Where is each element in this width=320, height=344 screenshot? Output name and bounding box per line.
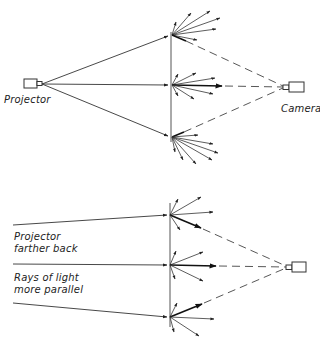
scatter-rays-middle (170, 251, 286, 281)
rays-more-parallel-label-line1: Rays of light (14, 272, 80, 283)
scatter-rays-top (172, 11, 283, 86)
rays-more-parallel-label-line2: more parallel (14, 284, 83, 295)
reflected-ray-to-camera (203, 229, 286, 266)
reflected-ray-to-camera (184, 88, 283, 132)
reflected-ray-to-camera (219, 266, 286, 267)
scatter-rays-bottom (172, 88, 283, 164)
bottom-diagram: Projector farther back Rays of light mor… (13, 197, 306, 336)
reflected-ray-to-camera (225, 86, 283, 87)
camera-icon (283, 82, 304, 92)
projector-farther-back-label-line1: Projector (14, 231, 61, 242)
incident-rays (42, 36, 168, 136)
scatter-rays-middle (172, 73, 283, 99)
camera-label: Camera (281, 103, 320, 114)
projector-label: Projector (4, 94, 51, 105)
reflected-ray-to-camera (204, 268, 286, 303)
diagram-canvas: Projector Camera (0, 0, 320, 344)
top-diagram: Projector Camera (4, 11, 320, 164)
camera-icon (286, 262, 306, 272)
scatter-rays-top (170, 197, 286, 266)
reflected-ray-to-camera (186, 41, 283, 86)
projector-farther-back-label-line2: farther back (14, 243, 79, 254)
projector-icon (24, 79, 42, 88)
scatter-rays-bottom (170, 268, 286, 336)
